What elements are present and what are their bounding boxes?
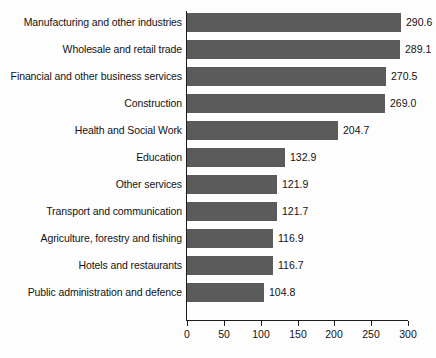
x-axis-tick bbox=[334, 321, 335, 326]
bar-value-label: 269.0 bbox=[390, 94, 416, 113]
bar-value-label: 116.7 bbox=[278, 256, 304, 275]
bar-value-label: 132.9 bbox=[290, 148, 316, 167]
bar bbox=[187, 67, 386, 86]
bar-row: Wholesale and retail trade289.1 bbox=[0, 40, 436, 67]
chart-plot-area: Manufacturing and other industries290.6W… bbox=[0, 13, 436, 310]
bar-value-label: 116.9 bbox=[278, 229, 304, 248]
x-axis-tick bbox=[261, 321, 262, 326]
x-axis-tick bbox=[187, 321, 188, 326]
bar bbox=[187, 121, 338, 140]
category-label: Health and Social Work bbox=[75, 121, 182, 140]
bar-row: Construction269.0 bbox=[0, 94, 436, 121]
bar-row: Transport and communication121.7 bbox=[0, 202, 436, 229]
x-axis-tick-label: 200 bbox=[325, 328, 343, 340]
category-label: Public administration and defence bbox=[28, 283, 182, 302]
category-label: Financial and other business services bbox=[11, 67, 182, 86]
x-axis-tick-label: 300 bbox=[399, 328, 417, 340]
bar bbox=[187, 40, 400, 59]
x-axis-tick-label: 0 bbox=[184, 328, 190, 340]
bar-value-label: 121.7 bbox=[282, 202, 308, 221]
x-axis-tick bbox=[224, 321, 225, 326]
bar bbox=[187, 175, 277, 194]
bar bbox=[187, 283, 264, 302]
category-label: Wholesale and retail trade bbox=[63, 40, 182, 59]
bar bbox=[187, 202, 277, 221]
bar bbox=[187, 13, 401, 32]
bar bbox=[187, 94, 385, 113]
bar-row: Education132.9 bbox=[0, 148, 436, 175]
x-axis-tick-label: 250 bbox=[362, 328, 380, 340]
x-axis-line bbox=[186, 320, 408, 321]
bar-row: Other services121.9 bbox=[0, 175, 436, 202]
bar bbox=[187, 148, 285, 167]
bar-value-label: 290.6 bbox=[406, 13, 432, 32]
x-axis-tick bbox=[298, 321, 299, 326]
bar-value-label: 104.8 bbox=[269, 283, 295, 302]
x-axis-tick bbox=[408, 321, 409, 326]
bar-row: Manufacturing and other industries290.6 bbox=[0, 13, 436, 40]
bar-row: Financial and other business services270… bbox=[0, 67, 436, 94]
bar bbox=[187, 256, 273, 275]
bar-value-label: 289.1 bbox=[405, 40, 431, 59]
bar-value-label: 121.9 bbox=[282, 175, 308, 194]
bar-row: Agriculture, forestry and fishing116.9 bbox=[0, 229, 436, 256]
y-axis-line bbox=[186, 11, 187, 321]
bar-row: Public administration and defence104.8 bbox=[0, 283, 436, 310]
bar bbox=[187, 229, 273, 248]
x-axis-tick-label: 50 bbox=[218, 328, 230, 340]
x-axis-tick-label: 150 bbox=[289, 328, 307, 340]
x-axis-tick bbox=[371, 321, 372, 326]
category-label: Other services bbox=[116, 175, 182, 194]
category-label: Transport and communication bbox=[46, 202, 182, 221]
bar-row: Hotels and restaurants116.7 bbox=[0, 256, 436, 283]
category-label: Education bbox=[136, 148, 182, 167]
category-label: Agriculture, forestry and fishing bbox=[41, 229, 182, 248]
bar-value-label: 270.5 bbox=[391, 67, 417, 86]
bar-chart: Manufacturing and other industries290.6W… bbox=[0, 0, 436, 358]
category-label: Hotels and restaurants bbox=[79, 256, 182, 275]
bar-row: Health and Social Work204.7 bbox=[0, 121, 436, 148]
category-label: Manufacturing and other industries bbox=[24, 13, 182, 32]
x-axis-tick-label: 100 bbox=[252, 328, 270, 340]
bar-value-label: 204.7 bbox=[343, 121, 369, 140]
category-label: Construction bbox=[124, 94, 182, 113]
